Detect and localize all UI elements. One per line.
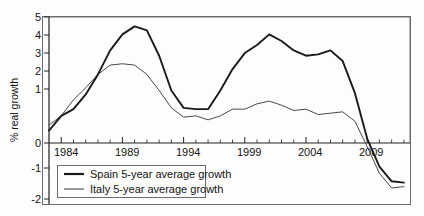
series-line-spain — [49, 26, 404, 182]
y-axis-title: % real growth — [8, 78, 20, 142]
x-tick-label-1994: 1994 — [176, 146, 200, 158]
y-tick-label-neg1: -1 — [31, 162, 41, 174]
y-tick-label-3: 3 — [35, 47, 41, 59]
x-tick-label-1989: 1989 — [115, 146, 139, 158]
x-tick-label-1984: 1984 — [54, 146, 78, 158]
x-tick-label-2004: 2004 — [298, 146, 322, 158]
y-axis-ticks: 5 4 3 2 1 0 -1 -2 — [31, 11, 49, 205]
y-tick-label-0: 0 — [35, 137, 41, 149]
y-tick-label-1: 1 — [35, 83, 41, 95]
y-tick-label-2: 2 — [35, 65, 41, 77]
chart-container: 5 4 3 2 1 0 -1 -2 1984 1989 1994 1999 20… — [0, 0, 424, 216]
legend-label-italy: Italy 5-year average growth — [90, 183, 223, 195]
growth-line-chart: 5 4 3 2 1 0 -1 -2 1984 1989 1994 1999 20… — [0, 0, 424, 216]
x-axis-tick-labels: 1984 1989 1994 1999 2004 2009 — [54, 146, 383, 158]
x-axis-ticks — [61, 137, 404, 143]
x-tick-label-1999: 1999 — [237, 146, 261, 158]
y-tick-label-neg2: -2 — [31, 193, 41, 205]
legend-label-spain: Spain 5-year average growth — [90, 168, 231, 180]
y-tick-label-5: 5 — [35, 11, 41, 23]
chart-legend: Spain 5-year average growth Italy 5-year… — [58, 166, 232, 198]
y-tick-label-4: 4 — [35, 29, 41, 41]
